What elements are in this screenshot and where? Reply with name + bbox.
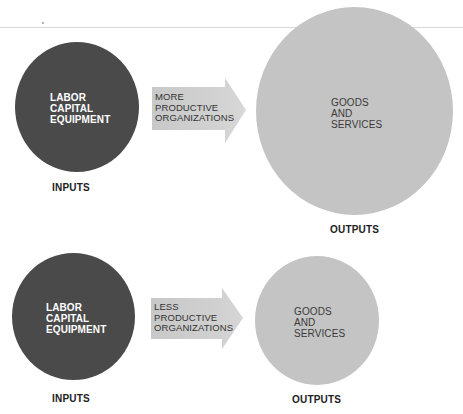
outputs-line-2: AND <box>331 108 382 119</box>
arrow-line-3: ORGANIZATIONS <box>155 113 234 124</box>
inputs-caption: INPUTS <box>52 182 90 193</box>
inputs-line-2: CAPITAL <box>46 313 106 324</box>
outputs-line-1: GOODS <box>294 306 345 317</box>
outputs-line-1: GOODS <box>331 97 382 108</box>
inputs-line-1: LABOR <box>50 92 110 103</box>
arrow-line-1: LESS <box>154 302 233 313</box>
arrow-line-3: ORGANIZATIONS <box>154 323 233 334</box>
inputs-line-3: EQUIPMENT <box>50 114 110 125</box>
arrow-label: LESS PRODUCTIVE ORGANIZATIONS <box>154 302 233 334</box>
inputs-circle-label: LABOR CAPITAL EQUIPMENT <box>46 302 106 335</box>
inputs-line-2: CAPITAL <box>50 103 110 114</box>
outputs-line-3: SERVICES <box>331 119 382 130</box>
outputs-circle-label: GOODS AND SERVICES <box>331 97 382 130</box>
inputs-caption: INPUTS <box>52 393 90 404</box>
outputs-line-2: AND <box>294 317 345 328</box>
process-arrow: MORE PRODUCTIVE ORGANIZATIONS <box>152 78 247 144</box>
arrow-label: MORE PRODUCTIVE ORGANIZATIONS <box>155 92 234 124</box>
arrow-line-1: MORE <box>155 92 234 103</box>
speck <box>42 22 44 24</box>
outputs-caption: OUTPUTS <box>292 394 341 405</box>
outputs-caption: OUTPUTS <box>330 224 379 235</box>
inputs-circle-label: LABOR CAPITAL EQUIPMENT <box>50 92 110 125</box>
process-arrow: LESS PRODUCTIVE ORGANIZATIONS <box>151 288 244 350</box>
outputs-circle-label: GOODS AND SERVICES <box>294 306 345 339</box>
inputs-line-1: LABOR <box>46 302 106 313</box>
outputs-line-3: SERVICES <box>294 328 345 339</box>
inputs-line-3: EQUIPMENT <box>46 324 106 335</box>
